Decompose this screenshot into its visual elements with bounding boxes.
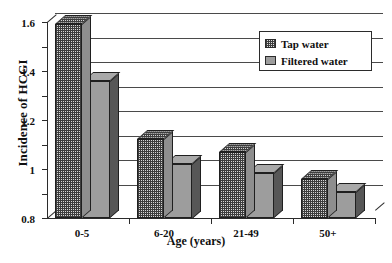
bar-side-face: [110, 73, 119, 218]
x-axis-tick: [293, 218, 294, 224]
y-axis-tick: 1.2: [42, 71, 48, 72]
bar-chart-figure: Incidence of HCGI 00.20.40.60.811.21.41.…: [0, 0, 392, 263]
x-axis-tick: [129, 218, 130, 224]
y-axis-tick-label: 1: [30, 164, 36, 176]
bar-side-face: [356, 184, 365, 218]
legend-label-tap-water: Tap water: [281, 38, 329, 50]
bar-front-face: [55, 24, 82, 218]
bar-tap-water-21-49: [219, 152, 246, 218]
plot-floor-right-edge: [375, 210, 384, 219]
bar-tap-water-6-20: [137, 139, 164, 218]
bar-side-face: [192, 156, 201, 218]
legend-item-filtered-water: Filtered water: [265, 52, 366, 69]
y-axis-tick: 0.4: [42, 169, 48, 170]
x-axis-tick: [211, 218, 212, 224]
gridline: [55, 13, 383, 14]
bar-tap-water-50+: [301, 179, 328, 218]
y-axis-tick-label: 0.8: [21, 213, 35, 225]
chart-legend: Tap water Filtered water: [259, 31, 372, 71]
bar-front-face: [301, 179, 328, 218]
y-axis-tick: 1.6: [42, 22, 48, 23]
legend-swatch-tap-water-icon: [265, 39, 276, 48]
y-axis-tick-label: 1.2: [21, 115, 35, 127]
y-axis-tick: 0.2: [42, 194, 48, 195]
x-axis-title: Age (years): [0, 234, 392, 249]
bar-front-face: [219, 152, 246, 218]
legend-swatch-filtered-water-icon: [265, 56, 276, 65]
legend-label-filtered-water: Filtered water: [281, 55, 348, 67]
bar-side-face: [82, 17, 91, 218]
bar-tap-water-0-5: [55, 24, 82, 218]
y-axis-tick-label: 1.6: [21, 17, 35, 29]
plot-wall-top-edge: [47, 14, 57, 23]
y-axis-tick: 1.4: [42, 47, 48, 48]
y-axis-tick: 0: [42, 218, 48, 219]
bar-side-face: [274, 165, 283, 218]
bar-side-face: [164, 131, 173, 218]
legend-item-tap-water: Tap water: [265, 35, 366, 52]
bar-front-face: [137, 139, 164, 218]
y-axis-tick: 0.6: [42, 145, 48, 146]
x-axis-tick: [375, 218, 376, 224]
y-axis-tick-label: 1.4: [21, 66, 35, 78]
bar-side-face: [246, 145, 255, 218]
y-axis-tick: 0.8: [42, 120, 48, 121]
y-axis-tick: 1: [42, 96, 48, 97]
